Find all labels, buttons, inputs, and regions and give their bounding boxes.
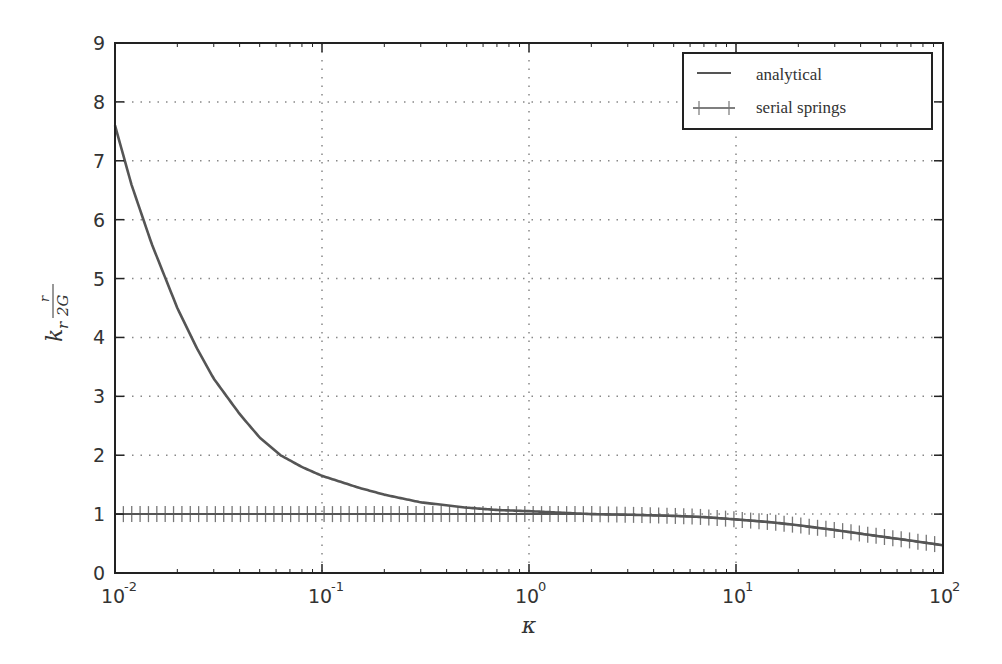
y-tick-label: 1 — [93, 503, 105, 525]
svg-text:-1: -1 — [331, 579, 344, 594]
x-axis-label: κ — [521, 613, 537, 638]
y-tick-label: 4 — [93, 326, 105, 348]
y-tick-label: 9 — [93, 32, 105, 54]
y-axis-label-denominator: 2G — [54, 294, 72, 317]
y-tick-label: 5 — [93, 268, 105, 290]
x-tick-label: 102 — [929, 579, 960, 607]
y-axis-label-base: k — [42, 329, 67, 342]
svg-text:10: 10 — [929, 585, 953, 607]
y-tick-label: 2 — [93, 444, 105, 466]
svg-text:1: 1 — [745, 579, 753, 594]
legend: analytical serial springs — [683, 53, 932, 129]
x-tick-label: 10-2 — [101, 579, 137, 607]
svg-text:10: 10 — [308, 585, 332, 607]
svg-text:10: 10 — [101, 585, 125, 607]
y-tick-label: 3 — [93, 385, 105, 407]
y-tick-label: 8 — [93, 91, 105, 113]
svg-text:10: 10 — [722, 585, 746, 607]
y-axis-label-numerator: r — [37, 295, 52, 302]
y-tick-label: 7 — [93, 150, 105, 172]
x-tick-label: 100 — [515, 579, 546, 607]
y-tick-label: 6 — [93, 209, 105, 231]
svg-text:2: 2 — [952, 579, 960, 594]
svg-text:-2: -2 — [124, 579, 137, 594]
svg-text:0: 0 — [538, 579, 546, 594]
legend-analytical-label: analytical — [756, 65, 822, 84]
y-axis-label-sub: r — [54, 321, 72, 329]
chart: 0123456789 10-210-1100101102 κ k r r 2G … — [0, 0, 1002, 664]
x-tick-label: 101 — [722, 579, 753, 607]
x-tick-label: 10-1 — [308, 579, 344, 607]
y-tick-label: 0 — [93, 562, 105, 584]
y-axis-label: k r r 2G — [37, 284, 72, 342]
legend-serial-springs-label: serial springs — [756, 98, 846, 117]
svg-text:10: 10 — [515, 585, 539, 607]
series-serial-springs — [115, 506, 943, 553]
serial-springs-line — [115, 514, 943, 545]
